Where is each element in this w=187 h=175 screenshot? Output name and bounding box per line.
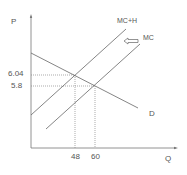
shift-arrow-icon (124, 38, 138, 44)
y-axis-arrow-icon (30, 14, 32, 18)
x-axis-label: Q (165, 155, 171, 163)
quantity-tick-48: 48 (71, 153, 80, 161)
mc-label: MC (143, 34, 154, 41)
quantity-tick-60: 60 (91, 153, 100, 161)
demand-curve (31, 53, 138, 108)
price-tick-6-04: 6.04 (8, 70, 24, 78)
y-axis-label: P (11, 18, 16, 26)
mc-plus-h-curve (31, 29, 126, 115)
supply-demand-diagram (0, 0, 187, 175)
price-tick-5-8: 5.8 (11, 82, 22, 90)
mc-plus-h-label: MC+H (117, 17, 137, 24)
mc-curve (46, 44, 140, 129)
x-axis-arrow-icon (174, 147, 178, 149)
demand-label: D (149, 110, 155, 118)
